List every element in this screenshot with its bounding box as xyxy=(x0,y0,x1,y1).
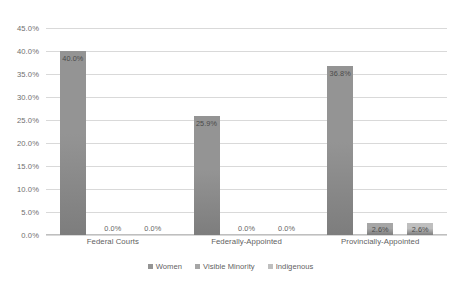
y-axis-tick-label: 40.0% xyxy=(17,47,39,56)
legend-label: Women xyxy=(156,262,182,271)
bar-value-label: 2.6% xyxy=(372,225,389,234)
bar-slot: 2.6% xyxy=(367,28,393,235)
bar-value-label: 0.0% xyxy=(144,224,161,233)
bar-value-label: 0.0% xyxy=(238,224,255,233)
bar[interactable]: 25.9% xyxy=(194,116,220,235)
legend-item[interactable]: Indigenous xyxy=(268,262,314,271)
bar-value-label: 36.8% xyxy=(330,69,351,78)
bar-groups: 40.0%0.0%0.0%25.9%0.0%0.0%36.8%2.6%2.6% xyxy=(46,28,447,235)
legend-swatch-icon xyxy=(268,264,273,269)
bar-slot: 0.0% xyxy=(274,28,300,235)
bar[interactable]: 2.6% xyxy=(367,223,393,235)
legend-swatch-icon xyxy=(148,264,153,269)
bar-slot: 0.0% xyxy=(100,28,126,235)
legend-item[interactable]: Women xyxy=(148,262,182,271)
bar[interactable]: 2.6% xyxy=(407,223,433,235)
bar-group: 40.0%0.0%0.0% xyxy=(46,28,180,235)
bar-slot: 0.0% xyxy=(234,28,260,235)
bar-slot: 36.8% xyxy=(327,28,353,235)
legend-label: Indigenous xyxy=(276,262,314,271)
bar-value-label: 0.0% xyxy=(104,224,121,233)
chart-title xyxy=(0,0,461,10)
bar[interactable]: 40.0% xyxy=(60,51,86,235)
bar-slot: 40.0% xyxy=(60,28,86,235)
y-axis-tick-label: 0.0% xyxy=(21,231,39,240)
legend-item[interactable]: Visible Minority xyxy=(195,262,255,271)
bar-chart: 45.0%40.0%35.0%30.0%25.0%20.0%15.0%10.0%… xyxy=(0,0,461,286)
bar-slot: 25.9% xyxy=(194,28,220,235)
x-axis-category-label: Provincially-Appointed xyxy=(313,237,447,253)
y-axis-tick-label: 25.0% xyxy=(17,116,39,125)
x-axis-category-label: Federal Courts xyxy=(46,237,180,253)
y-axis-tick-label: 35.0% xyxy=(17,70,39,79)
y-axis-tick-label: 15.0% xyxy=(17,162,39,171)
bar[interactable]: 36.8% xyxy=(327,66,353,235)
x-axis-labels: Federal CourtsFederally-AppointedProvinc… xyxy=(46,237,447,253)
bar-value-label: 40.0% xyxy=(62,54,83,63)
bar-value-label: 2.6% xyxy=(412,225,429,234)
bar-value-label: 25.9% xyxy=(196,119,217,128)
bar-group: 36.8%2.6%2.6% xyxy=(313,28,447,235)
y-axis-tick-label: 45.0% xyxy=(17,24,39,33)
bar-value-label: 0.0% xyxy=(278,224,295,233)
plot-area: 40.0%0.0%0.0%25.9%0.0%0.0%36.8%2.6%2.6% xyxy=(46,28,447,235)
y-axis-labels: 45.0%40.0%35.0%30.0%25.0%20.0%15.0%10.0%… xyxy=(0,28,44,235)
bar-group: 25.9%0.0%0.0% xyxy=(180,28,314,235)
y-axis-tick-label: 5.0% xyxy=(21,208,39,217)
gridline xyxy=(46,235,447,236)
bar-slot: 0.0% xyxy=(140,28,166,235)
y-axis-tick-label: 10.0% xyxy=(17,185,39,194)
x-axis-category-label: Federally-Appointed xyxy=(180,237,314,253)
y-axis-tick-label: 30.0% xyxy=(17,93,39,102)
bar-slot: 2.6% xyxy=(407,28,433,235)
chart-legend: WomenVisible MinorityIndigenous xyxy=(0,258,461,274)
y-axis-tick-label: 20.0% xyxy=(17,139,39,148)
legend-swatch-icon xyxy=(195,264,200,269)
legend-label: Visible Minority xyxy=(203,262,255,271)
